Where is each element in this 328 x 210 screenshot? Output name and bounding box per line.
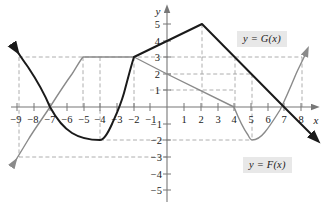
y-tick-label-neg5: −5	[151, 185, 162, 196]
graph-figure: −9 −8 −7 −6 −5 −4 −3 −2 −1 1 2 3 4 5 6 7…	[0, 0, 328, 210]
x-tick-label-neg8: −8	[27, 114, 38, 125]
x-tick-label-7: 7	[281, 114, 286, 125]
x-tick-label-5: 5	[248, 114, 253, 125]
y-tick-label-neg4: −4	[151, 169, 163, 180]
x-tick-label-neg7: −7	[44, 114, 55, 125]
x-tick-label-neg4: −4	[94, 114, 106, 125]
y-tick-label-neg2: −2	[151, 135, 162, 146]
y-tick-label-3: 3	[155, 52, 160, 63]
x-tick-label-6: 6	[265, 114, 270, 125]
y-tick-label-neg1: −1	[151, 119, 162, 130]
y-tick-label-5: 5	[155, 19, 160, 30]
y-tick-label-1: 1	[155, 85, 160, 96]
curve-label-g: y = G(x)	[237, 31, 287, 47]
x-tick-label-1: 1	[181, 114, 186, 125]
x-tick-label-2: 2	[198, 114, 203, 125]
x-tick-label-3: 3	[215, 114, 220, 125]
y-tick-label-neg3: −3	[151, 152, 162, 163]
y-axis-name: y	[155, 5, 161, 17]
x-tick-label-neg9: −9	[10, 114, 21, 125]
x-axis-name: x	[313, 114, 319, 126]
x-tick-label-neg2: −2	[128, 114, 139, 125]
curve-label-f: y = F(x)	[243, 157, 292, 173]
x-tick-label-neg5: −5	[78, 114, 89, 125]
x-tick-label-4: 4	[231, 114, 237, 125]
x-tick-label-neg6: −6	[61, 114, 72, 125]
